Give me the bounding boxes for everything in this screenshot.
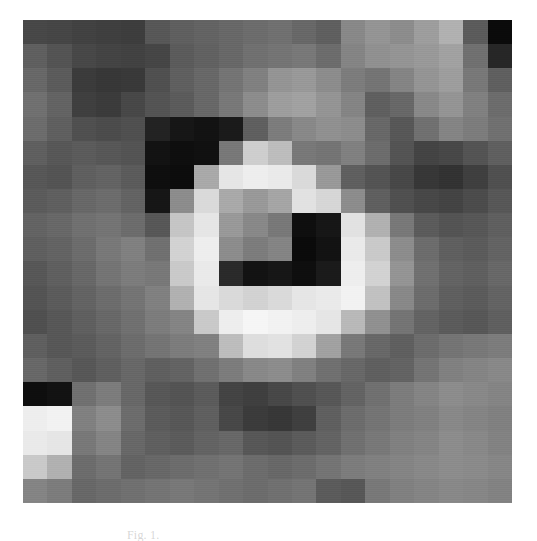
heatmap-cell [292,286,316,310]
heatmap-cell [268,286,292,310]
heatmap-cell [96,479,120,503]
heatmap-cell [439,455,463,479]
heatmap-cell [365,237,389,261]
heatmap-cell [219,44,243,68]
heatmap-cell [439,431,463,455]
heatmap-cell [194,334,218,358]
heatmap-cell [439,117,463,141]
heatmap-cell [96,261,120,285]
heatmap-cell [439,334,463,358]
heatmap-cell [47,479,71,503]
heatmap-cell [72,455,96,479]
heatmap-cell [316,431,340,455]
heatmap-cell [439,237,463,261]
heatmap-cell [121,20,145,44]
heatmap-cell [121,455,145,479]
heatmap-cell [292,92,316,116]
heatmap-cell [268,310,292,334]
heatmap-cell [96,237,120,261]
heatmap-cell [243,382,267,406]
heatmap-cell [243,286,267,310]
heatmap-cell [194,117,218,141]
heatmap-cell [170,310,194,334]
heatmap-cell [194,213,218,237]
heatmap-cell [72,261,96,285]
heatmap-cell [390,44,414,68]
heatmap-cell [268,165,292,189]
heatmap-cell [439,310,463,334]
heatmap-cell [145,68,169,92]
heatmap-cell [121,431,145,455]
heatmap-cell [121,165,145,189]
heatmap-cell [23,358,47,382]
heatmap-cell [341,431,365,455]
heatmap-cell [439,358,463,382]
heatmap-cell [488,68,512,92]
heatmap-cell [194,92,218,116]
heatmap-cell [268,261,292,285]
heatmap-cell [96,20,120,44]
heatmap-cell [72,431,96,455]
heatmap-cell [96,117,120,141]
heatmap-cell [439,189,463,213]
heatmap-cell [96,455,120,479]
heatmap-cell [414,382,438,406]
heatmap-cell [365,286,389,310]
heatmap-cell [292,44,316,68]
heatmap-cell [439,68,463,92]
heatmap-cell [47,406,71,430]
heatmap-cell [23,141,47,165]
heatmap-cell [47,286,71,310]
heatmap-cell [170,20,194,44]
heatmap-cell [439,479,463,503]
heatmap-cell [414,261,438,285]
heatmap-cell [219,92,243,116]
heatmap-cell [316,455,340,479]
heatmap-cell [219,20,243,44]
heatmap-cell [170,286,194,310]
heatmap-cell [463,479,487,503]
heatmap-cell [96,141,120,165]
heatmap-cell [72,165,96,189]
heatmap-cell [341,44,365,68]
heatmap-cell [292,117,316,141]
heatmap-cell [268,44,292,68]
heatmap-cell [219,141,243,165]
heatmap-cell [170,213,194,237]
heatmap-cell [268,382,292,406]
heatmap-cell [219,189,243,213]
heatmap-cell [72,382,96,406]
heatmap-cell [488,310,512,334]
heatmap-cell [170,68,194,92]
heatmap-cell [23,92,47,116]
heatmap-cell [23,165,47,189]
heatmap-cell [316,165,340,189]
heatmap-cell [219,68,243,92]
heatmap-cell [170,237,194,261]
heatmap-cell [170,431,194,455]
heatmap-cell [414,117,438,141]
heatmap-cell [463,406,487,430]
heatmap-cell [292,20,316,44]
heatmap-cell [219,165,243,189]
heatmap-cell [170,406,194,430]
heatmap-cell [365,117,389,141]
heatmap-cell [219,406,243,430]
heatmap-cell [316,213,340,237]
heatmap-cell [96,92,120,116]
heatmap-cell [390,286,414,310]
heatmap-cell [47,334,71,358]
astronomical-image-panel [23,20,512,503]
heatmap-cell [488,455,512,479]
heatmap-cell [414,334,438,358]
heatmap-cell [243,44,267,68]
heatmap-cell [23,117,47,141]
heatmap-cell [23,286,47,310]
heatmap-cell [23,479,47,503]
heatmap-cell [341,117,365,141]
heatmap-cell [341,68,365,92]
heatmap-cell [219,455,243,479]
heatmap-cell [194,479,218,503]
heatmap-cell [145,406,169,430]
heatmap-cell [365,189,389,213]
